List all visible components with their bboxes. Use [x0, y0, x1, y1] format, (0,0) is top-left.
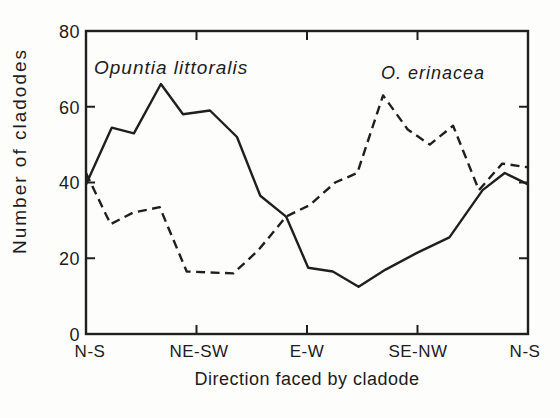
y-tick-label: 40: [45, 173, 80, 194]
y-axis-title: Number of cladodes: [9, 48, 31, 254]
series-line-o-erinacea: [86, 95, 528, 273]
y-tick-label: 80: [45, 22, 80, 43]
x-tick-label: E-W: [290, 342, 325, 362]
x-tick-label: N-S: [75, 342, 106, 362]
y-tick-label: 60: [45, 98, 80, 119]
x-tick-label: NE-SW: [169, 342, 228, 362]
x-tick-label: N-S: [510, 342, 541, 362]
x-axis-title: Direction faced by cladode: [194, 369, 419, 390]
x-tick-label: SE-NW: [388, 342, 447, 362]
series-line-opuntia-littoralis: [86, 84, 528, 287]
series-label-opuntia-littoralis: Opuntia littoralis: [94, 57, 248, 79]
chart-figure: 80 60 40 20 0 N-S NE-SW E-W SE-NW N-S Di…: [0, 0, 560, 418]
y-tick-label: 20: [45, 249, 80, 270]
series-label-o-erinacea: O. erinacea: [381, 63, 485, 84]
